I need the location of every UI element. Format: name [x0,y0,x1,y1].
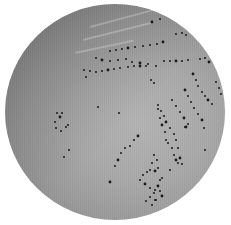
colony-dot [163,115,165,117]
colony-dot [151,21,154,24]
colony-dot [167,142,169,144]
colony-dot [145,65,147,67]
colony-dot [208,61,211,64]
colony-dot [157,104,159,106]
colony-dot [195,79,197,81]
colony-dot [169,127,171,129]
colony-dot [113,68,115,70]
colony-dot [139,65,142,68]
colony-dot [117,59,119,61]
colony-dot [161,195,164,198]
colony-dot [63,156,65,158]
colony-dot [157,108,159,110]
colony-dot [183,117,186,120]
colony-dot [165,139,167,141]
colony-dot [204,95,206,97]
colony-dot [117,159,120,162]
colony-dot [124,147,126,149]
colony-dot [173,154,175,156]
colony-dot [154,199,156,201]
colony-dot [101,70,103,72]
colony-dot [109,60,111,62]
colony-dot [169,169,171,171]
colony-dot [131,61,133,63]
colony-dot [97,106,99,108]
colony-dot [153,192,155,194]
colony-dot [144,183,147,186]
colony-dot [163,60,165,62]
colony-dot [207,99,210,102]
colony-dot [154,170,157,173]
colony-dot [119,67,121,69]
colony-dot [160,110,162,112]
colony-dot [127,66,129,68]
colony-dot [59,116,62,119]
colony-dot [156,43,158,45]
colony-dot [149,196,151,198]
colony-dot [146,171,148,173]
colony-dot [120,152,122,154]
colony-dot [115,49,117,51]
colony-dot [65,126,67,128]
colony-dot [179,157,182,160]
colony-dot [145,200,147,202]
colony-dot [159,117,161,119]
colony-dot [55,127,57,129]
colony-dot [151,204,153,206]
colony-dot [159,18,161,20]
colony-dot [85,76,87,78]
colony-dot [95,57,97,59]
colony-dot [177,162,179,164]
colony-dot [177,147,179,149]
colony-dot [107,69,110,72]
colony-dot [184,89,187,92]
colony-dot [220,93,222,95]
colony-dot [101,59,104,62]
colony-dot [175,159,178,162]
colony-dot [161,124,164,127]
colony-dot [181,163,183,165]
colony-dot [129,145,131,147]
colony-dot [161,177,163,179]
colony-dot [156,159,158,161]
colony-dot [181,32,183,34]
colony-dot [157,167,159,169]
colony-dot [127,47,130,50]
colony-dot [142,45,144,47]
colony-dot [203,127,205,129]
colony-dot [190,101,192,103]
colony-dot [169,60,171,62]
colony-dot [199,58,201,60]
colony-dot [60,130,62,132]
colony-dot [89,70,91,72]
colony-dot [133,65,135,67]
colony-dot [147,63,149,65]
colony-dot [139,179,141,181]
colony-dot [165,121,168,124]
colony-dot [187,123,189,125]
colony-dot [142,174,144,176]
colony-dot [139,62,142,65]
colony-dot [159,179,161,181]
colony-dot [155,65,157,67]
colony-dot [109,181,112,184]
colony-dot [175,105,177,107]
colony-dot [118,112,120,114]
colony-dot [204,149,206,151]
colony-dot [185,126,188,129]
colony-dot [173,133,175,135]
colony-dot [179,111,181,113]
colony-dot [149,44,151,46]
colony-dot [68,149,70,151]
colony-dot [149,169,151,171]
colony-dot [154,189,156,191]
colony-dot [201,91,203,93]
colony-dot [121,48,123,50]
colony-dot [218,87,220,89]
colony-dot [137,135,140,138]
colony-dot [54,121,56,123]
colony-dot [175,60,178,63]
colony-dot [185,34,187,36]
colony-dot [157,185,160,188]
colony-dot [215,81,217,83]
